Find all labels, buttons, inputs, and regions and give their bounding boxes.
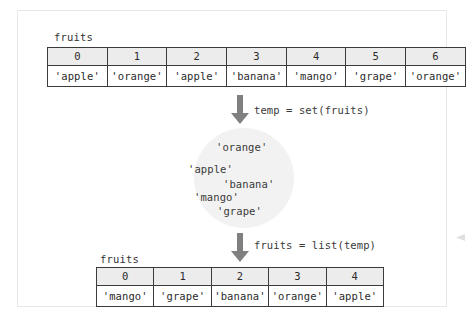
value-cell: 'orange' <box>107 66 167 87</box>
index-cell: 1 <box>107 48 167 66</box>
value-cell: 'mango' <box>286 66 346 87</box>
set-item: 'apple' <box>188 163 233 175</box>
arrow-down-icon <box>229 95 251 125</box>
index-cell: 5 <box>346 48 406 66</box>
table-row-values: 'mango' 'grape' 'banana' 'orange' 'apple… <box>97 286 384 307</box>
value-cell: 'apple' <box>326 286 383 307</box>
bottom-list-table: 0 1 2 3 4 'mango' 'grape' 'banana' 'oran… <box>96 267 384 307</box>
value-cell: 'grape' <box>154 286 211 307</box>
index-cell: 0 <box>97 268 154 286</box>
bottom-table-variable-label: fruits <box>100 253 139 265</box>
top-list-table: 0 1 2 3 4 5 6 'apple' 'orange' 'apple' '… <box>47 47 466 87</box>
index-cell: 4 <box>286 48 346 66</box>
top-table-variable-label: fruits <box>54 31 93 43</box>
step-one-code-label: temp = set(fruits) <box>254 104 370 116</box>
table-row-indices: 0 1 2 3 4 5 6 <box>48 48 466 66</box>
table-row-indices: 0 1 2 3 4 <box>97 268 384 286</box>
value-cell: 'apple' <box>48 66 108 87</box>
value-cell: 'orange' <box>269 286 326 307</box>
arrow-down-icon <box>229 233 251 263</box>
set-item: 'mango' <box>194 191 239 203</box>
step-two-code-label: fruits = list(temp) <box>254 239 376 251</box>
index-cell: 2 <box>167 48 227 66</box>
cursor-artifact-icon <box>456 234 465 241</box>
index-cell: 2 <box>211 268 268 286</box>
value-cell: 'banana' <box>211 286 268 307</box>
set-item: 'orange' <box>216 141 267 153</box>
set-item: 'grape' <box>217 205 262 217</box>
diagram-panel: fruits 0 1 2 3 4 5 6 'apple' 'orange' 'a… <box>17 10 447 307</box>
value-cell: 'orange' <box>406 66 466 87</box>
index-cell: 3 <box>227 48 287 66</box>
table-row-values: 'apple' 'orange' 'apple' 'banana' 'mango… <box>48 66 466 87</box>
index-cell: 4 <box>326 268 383 286</box>
value-cell: 'mango' <box>97 286 154 307</box>
value-cell: 'grape' <box>346 66 406 87</box>
index-cell: 3 <box>269 268 326 286</box>
value-cell: 'banana' <box>227 66 287 87</box>
index-cell: 0 <box>48 48 108 66</box>
value-cell: 'apple' <box>167 66 227 87</box>
index-cell: 1 <box>154 268 211 286</box>
set-item: 'banana' <box>223 178 274 190</box>
index-cell: 6 <box>406 48 466 66</box>
